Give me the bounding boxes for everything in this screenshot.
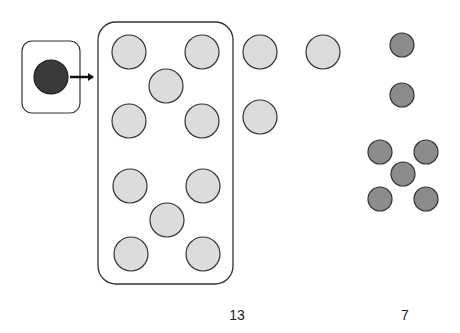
- dark-gray-circles: [368, 33, 438, 211]
- light-circle: [185, 35, 219, 69]
- light-circle-group-box: [98, 22, 233, 284]
- light-count-label: 13: [229, 307, 245, 323]
- light-circle: [114, 237, 148, 271]
- diagram-canvas: [0, 0, 460, 333]
- gray-circle: [414, 187, 438, 211]
- light-circle: [243, 100, 277, 134]
- light-circle: [186, 237, 220, 271]
- gray-circle: [391, 162, 415, 186]
- light-circle: [112, 104, 146, 138]
- light-circle: [149, 69, 183, 103]
- light-circle: [306, 35, 340, 69]
- dark-count-label: 7: [401, 307, 409, 323]
- gray-circle: [390, 33, 414, 57]
- gray-circle: [368, 140, 392, 164]
- light-circle: [185, 104, 219, 138]
- light-circle: [112, 35, 146, 69]
- light-circle: [243, 35, 277, 69]
- dark-circle: [34, 60, 68, 94]
- light-circle: [113, 169, 147, 203]
- outside-light-circles: [243, 35, 340, 134]
- gray-circle: [414, 140, 438, 164]
- light-circle: [150, 203, 184, 237]
- light-circle: [186, 169, 220, 203]
- gray-circle: [390, 83, 414, 107]
- gray-circle: [368, 187, 392, 211]
